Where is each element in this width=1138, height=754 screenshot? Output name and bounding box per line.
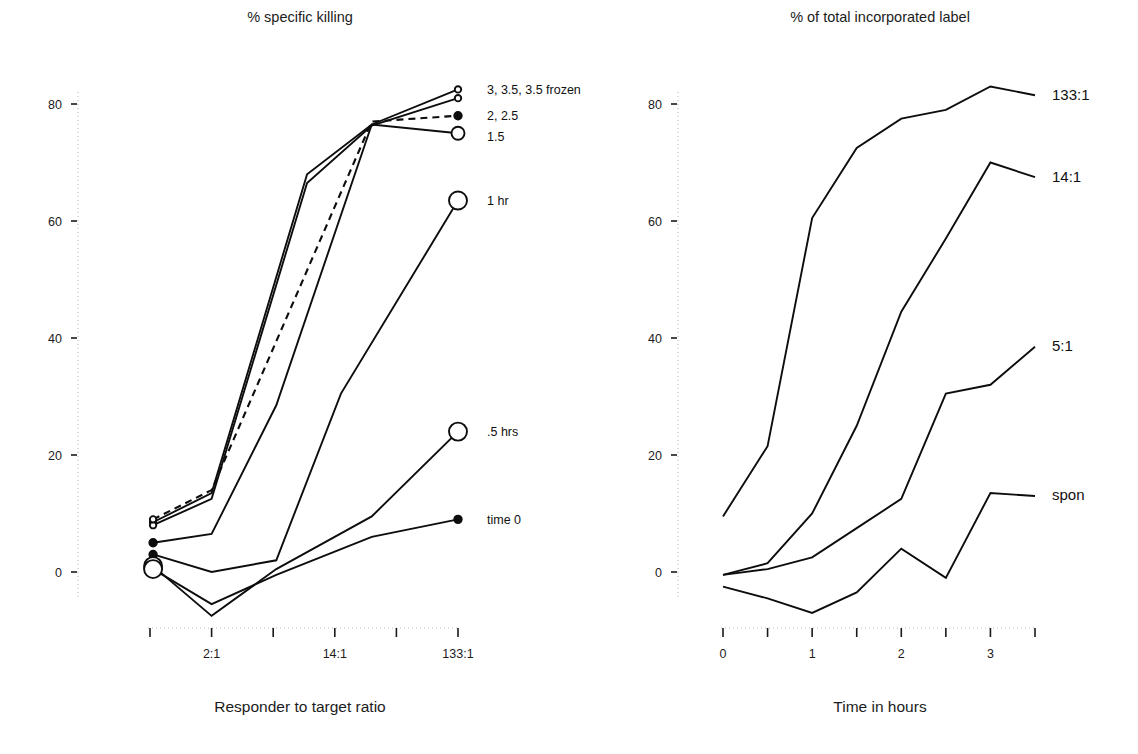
series-label: 2, 2.5	[487, 109, 518, 123]
data-marker-filled-dot	[454, 515, 462, 523]
y-axis-tick-label: 80	[648, 98, 662, 112]
x-axis-tick-label: 3	[987, 647, 994, 661]
y-axis-tick-label: 60	[648, 215, 662, 229]
series-label: time 0	[487, 513, 521, 527]
panel-title: % of total incorporated label	[790, 9, 970, 25]
y-axis-tick-label: 40	[648, 332, 662, 346]
data-marker-large-open	[449, 423, 467, 441]
series-label: 133:1	[1052, 86, 1090, 103]
x-axis-tick-label: 2:1	[203, 647, 220, 661]
y-axis-tick-label: 0	[655, 566, 662, 580]
y-axis-tick-label: 60	[48, 215, 62, 229]
y-axis-tick-label: 20	[648, 449, 662, 463]
data-marker-filled-dot	[454, 112, 462, 120]
data-marker-filled-dot	[149, 539, 157, 547]
data-marker-small-open	[455, 95, 461, 101]
y-axis-tick-label: 80	[48, 98, 62, 112]
x-axis-title: Time in hours	[833, 698, 927, 715]
scientific-figure: % specific killing0204060802:114:1133:1R…	[0, 0, 1138, 754]
x-axis-title: Responder to target ratio	[214, 698, 385, 715]
data-marker-large-open	[144, 560, 162, 578]
data-marker-large-open	[449, 192, 467, 210]
x-axis-tick-label: 0	[720, 647, 727, 661]
series-label: 3, 3.5, 3.5 frozen	[487, 83, 581, 97]
series-label: 1.5	[487, 130, 504, 144]
x-axis-tick-label: 1	[809, 647, 816, 661]
data-marker-small-open	[455, 86, 461, 92]
series-label: 5:1	[1052, 337, 1073, 354]
figure-root: % specific killing0204060802:114:1133:1R…	[0, 0, 1138, 754]
x-axis-tick-label: 14:1	[323, 647, 347, 661]
y-axis-tick-label: 0	[55, 566, 62, 580]
y-axis-tick-label: 40	[48, 332, 62, 346]
y-axis-tick-label: 20	[48, 449, 62, 463]
x-axis-tick-label: 133:1	[442, 647, 473, 661]
series-label: 1 hr	[487, 194, 509, 208]
x-axis-tick-label: 2	[898, 647, 905, 661]
series-label: 14:1	[1052, 168, 1081, 185]
series-label: .5 hrs	[487, 425, 518, 439]
series-label: spon	[1052, 486, 1085, 503]
data-marker-medium-open	[452, 127, 465, 140]
figure-background	[0, 0, 1138, 754]
panel-title: % specific killing	[247, 9, 353, 25]
data-marker-small-open	[150, 516, 156, 522]
